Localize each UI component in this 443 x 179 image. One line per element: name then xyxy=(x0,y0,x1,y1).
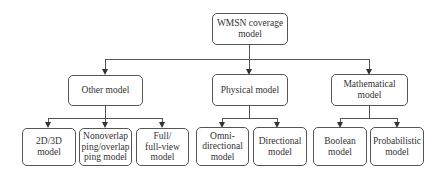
leaf-node-2d3d-model: 2D/3D model xyxy=(22,128,76,166)
category-node-other-model: Other model xyxy=(68,75,143,106)
connector xyxy=(222,118,278,119)
root-node-wmsn-coverage-model: WMSN coverage model xyxy=(212,13,288,45)
connector xyxy=(340,118,398,119)
connector xyxy=(369,59,370,69)
category-node-mathematical-model: Mathematical model xyxy=(331,74,408,106)
connector xyxy=(249,106,250,118)
connector xyxy=(249,45,250,59)
connector xyxy=(105,59,370,60)
leaf-node-full-view-model: Full/ full-view model xyxy=(136,128,189,166)
leaf-node-boolean-model: Boolean model xyxy=(313,127,367,166)
connector xyxy=(105,59,106,69)
leaf-node-omni-directional-model: Omni- directional model xyxy=(196,127,249,166)
connector xyxy=(105,106,106,118)
leaf-node-nonoverlapping-model: Nonoverlap ping/overlap ping model xyxy=(79,128,132,166)
connector xyxy=(249,59,250,69)
leaf-node-probabilistic-model: Probabilistic model xyxy=(370,127,424,166)
leaf-node-directional-model: Directional model xyxy=(253,127,307,166)
connector xyxy=(369,106,370,118)
category-node-physical-model: Physical model xyxy=(212,74,288,106)
